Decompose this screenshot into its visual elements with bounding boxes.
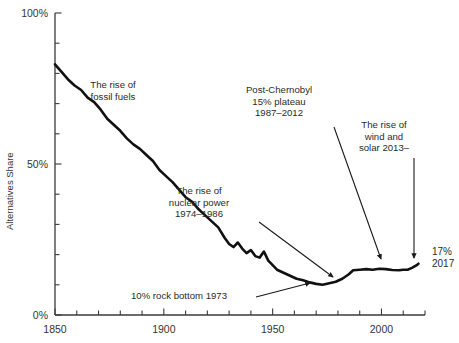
annotation-endpoint-value: 17%2017 — [432, 246, 455, 269]
annotation-text: 10% rock bottom 1973 — [131, 290, 227, 301]
annotation-text: nuclear power — [169, 197, 230, 208]
annotation-rise-of-wind-and-solar: The rise ofwind andsolar 2013– — [359, 119, 414, 258]
annotation-layer: The rise offossil fuelsThe rise ofnuclea… — [90, 79, 454, 301]
annotation-text: 1974–1986 — [175, 208, 223, 219]
annotation-text: Post-Chernobyl — [246, 84, 312, 95]
y-tick-label: 0% — [33, 309, 48, 321]
y-tick-label: 50% — [27, 158, 48, 170]
y-axis-tick-labels: 0%50%100% — [21, 7, 48, 321]
annotation-text: 17% — [432, 246, 452, 257]
annotation-arrow — [256, 283, 310, 297]
x-axis-tick-labels: 1850190019502000 — [43, 323, 393, 335]
annotation-text: fossil fuels — [91, 91, 136, 102]
annotation-arrow — [259, 222, 333, 277]
x-tick-label: 1950 — [261, 323, 285, 335]
annotation-text: 15% plateau — [252, 96, 305, 107]
x-tick-label: 2000 — [370, 323, 394, 335]
annotation-text: 2017 — [432, 258, 455, 269]
annotation-text: The rise of — [361, 119, 407, 130]
axes: 0%50%100% 1850190019502000 — [21, 7, 425, 335]
annotation-post-chernobyl-plateau: Post-Chernobyl15% plateau1987–2012 — [246, 84, 381, 259]
annotation-rise-of-fossil-fuels: The rise offossil fuels — [90, 79, 136, 102]
annotation-text: The rise of — [90, 79, 136, 90]
x-tick-label: 1900 — [152, 323, 176, 335]
y-axis-ticks — [55, 13, 62, 315]
annotation-text: solar 2013– — [359, 142, 410, 153]
annotation-text: 1987–2012 — [255, 107, 303, 118]
y-axis-title: Alternatives Share — [4, 152, 15, 230]
alternatives-share-chart: 0%50%100% 1850190019502000 Alternatives … — [0, 0, 459, 343]
x-axis-ticks — [55, 309, 425, 316]
annotation-rise-of-nuclear-power: The rise ofnuclear power1974–1986 — [169, 185, 333, 277]
x-tick-label: 1850 — [43, 323, 67, 335]
annotation-rock-bottom-1973: 10% rock bottom 1973 — [131, 283, 310, 301]
chart-canvas: 0%50%100% 1850190019502000 Alternatives … — [0, 0, 459, 343]
annotation-text: The rise of — [176, 185, 222, 196]
annotation-text: wind and — [364, 131, 403, 142]
y-tick-label: 100% — [21, 7, 48, 19]
